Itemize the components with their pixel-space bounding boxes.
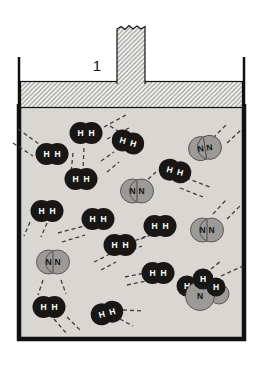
atom-symbol: H	[88, 128, 94, 138]
atom-symbol: H	[51, 302, 57, 312]
h2-molecule: HH	[144, 215, 177, 237]
n2-molecule: NN	[37, 250, 70, 274]
n2-molecule: NN	[121, 179, 154, 203]
atom-symbol: H	[122, 240, 128, 250]
atom-symbol: H	[160, 268, 166, 278]
atom-symbol: H	[83, 174, 89, 184]
atom-symbol: H	[89, 214, 95, 224]
atom-symbol: H	[151, 221, 157, 231]
atom-symbol: N	[45, 257, 51, 267]
atom-symbol: H	[162, 221, 168, 231]
atom-symbol: H	[100, 214, 106, 224]
cluster-atom-symbol: H	[213, 282, 219, 292]
h2-molecule: HH	[104, 234, 137, 256]
h2-molecule: HH	[82, 208, 115, 230]
atom-symbol: N	[138, 186, 144, 196]
atom-symbol: H	[77, 128, 83, 138]
atom-symbol: H	[111, 240, 117, 250]
piston-rod	[117, 26, 145, 85]
cluster-atom-symbol: H	[200, 274, 206, 284]
atom-symbol: H	[72, 174, 78, 184]
figure-canvas: 1 HHHHHHHHHHHHHHHHHHHHHHHHNNNNNNNN HNHH	[0, 0, 259, 365]
n2-molecule: NN	[191, 218, 224, 242]
atom-symbol: H	[43, 149, 49, 159]
atom-symbol: H	[38, 206, 44, 216]
atom-symbol: H	[49, 206, 55, 216]
piston-plate	[21, 82, 243, 108]
figure-number-label: 1	[93, 57, 101, 74]
h2-molecule: HH	[36, 143, 69, 165]
atom-symbol: N	[199, 225, 205, 235]
atom-symbol: H	[149, 268, 155, 278]
h2-molecule: HH	[142, 262, 175, 284]
h2-molecule: HH	[65, 168, 98, 190]
atom-symbol: N	[54, 257, 60, 267]
h2-molecule: HH	[70, 122, 103, 144]
atom-symbol: H	[54, 149, 60, 159]
h2-molecule: HH	[31, 200, 64, 222]
atom-symbol: N	[208, 225, 214, 235]
piston-cylinder-figure: 1 HHHHHHHHHHHHHHHHHHHHHHHHNNNNNNNN HNHH	[0, 0, 259, 365]
atom-symbol: H	[40, 302, 46, 312]
atom-symbol: N	[129, 186, 135, 196]
h2-molecule: HH	[33, 296, 66, 318]
cluster-atom-symbol: N	[197, 291, 203, 301]
